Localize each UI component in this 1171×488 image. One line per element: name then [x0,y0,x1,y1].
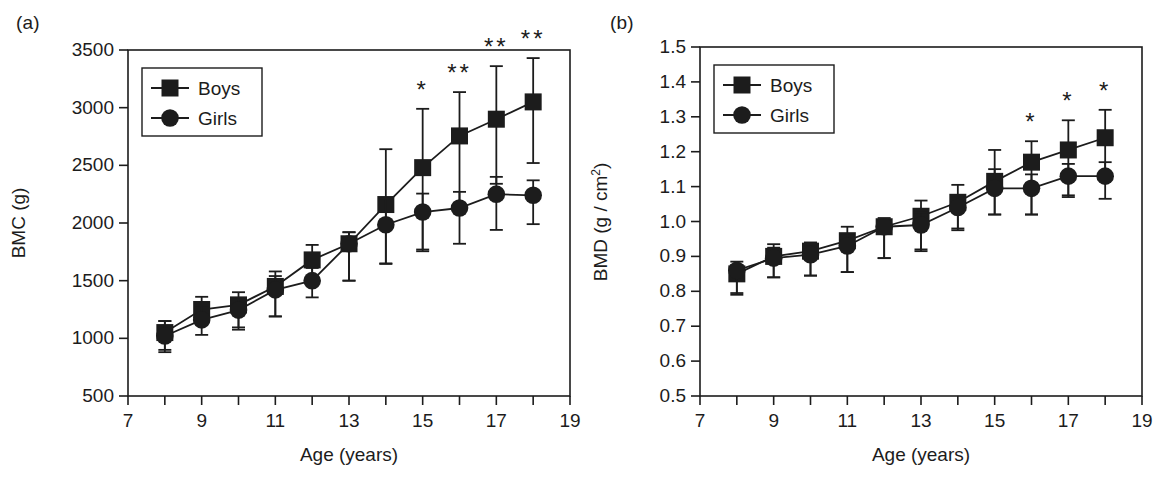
y-tick-label: 1.0 [660,211,686,232]
marker-circle [912,216,930,234]
marker-circle [1060,167,1078,185]
series-boys [728,110,1113,295]
marker-square [451,127,468,144]
x-tick-label: 7 [123,410,134,431]
marker-circle [451,199,469,217]
marker-square [1097,129,1114,146]
marker-circle [414,203,432,221]
significance-marker: ** [521,25,546,52]
legend-label-boys: Boys [770,75,812,96]
y-tick-label: 3500 [72,39,114,60]
y-tick-label: 1.4 [660,71,687,92]
x-tick-label: 15 [984,410,1005,431]
y-tick-label: 1.2 [660,141,686,162]
x-tick-label: 19 [1131,410,1152,431]
marker-circle [340,235,358,253]
marker-circle [949,199,967,217]
y-tick-label: 2500 [72,154,114,175]
x-tick-label: 13 [910,410,931,431]
x-axis-title-b: Age (years) [700,444,1142,466]
significance-marker: ** [447,59,472,86]
marker-circle [875,218,893,236]
x-tick-label: 19 [559,410,580,431]
x-tick-label: 13 [338,410,359,431]
x-tick-label: 15 [412,410,433,431]
marker-square [488,111,505,128]
x-tick-label: 17 [486,410,507,431]
marker-circle [488,185,506,203]
x-tick-label: 9 [768,410,779,431]
significance-marker: ** [484,33,509,60]
marker-square [1023,154,1040,171]
plot-area-a: 500100015002000250030003500791113151719*… [0,0,586,488]
y-tick-label: 500 [82,385,114,406]
legend-label-boys: Boys [198,78,240,99]
marker-square [304,251,321,268]
x-axis-title-a: Age (years) [128,444,570,466]
marker-circle [156,327,174,345]
figure-root: (a) 500100015002000250030003500791113151… [0,0,1171,488]
legend-label-girls: Girls [770,105,809,126]
significance-marker: * [416,76,428,103]
marker-circle [1096,167,1114,185]
y-tick-label: 2000 [72,212,114,233]
significance-marker: * [1025,108,1037,135]
legend-marker-square [162,80,179,97]
y-axis-title-a: BMC (g) [8,188,30,259]
marker-square [525,93,542,110]
x-tick-label: 17 [1058,410,1079,431]
series-girls [156,177,542,350]
legend-label-girls: Girls [198,108,237,129]
legend: BoysGirls [714,65,834,133]
significance-marker: * [1062,87,1074,114]
y-tick-label: 0.7 [660,315,686,336]
legend-marker-circle [161,109,179,127]
y-tick-label: 1.5 [660,36,686,57]
chart-panel-a: (a) 500100015002000250030003500791113151… [0,0,586,488]
marker-circle [377,216,395,234]
y-tick-label: 1.1 [660,176,686,197]
marker-circle [1023,180,1041,198]
marker-circle [765,249,783,267]
x-tick-label: 11 [837,410,857,431]
y-tick-label: 0.5 [660,385,686,406]
series-girls [728,162,1114,293]
marker-circle [728,262,746,280]
chart-panel-b: (b) 0.50.60.70.80.91.01.11.21.31.41.5791… [586,0,1171,488]
marker-circle [839,237,857,255]
x-tick-label: 7 [695,410,706,431]
marker-circle [193,311,211,329]
plot-area-b: 0.50.60.70.80.91.01.11.21.31.41.57911131… [586,0,1171,488]
marker-circle [524,187,542,205]
y-axis-title-b: BMD (g / cm2) [590,162,612,281]
legend-marker-circle [733,106,751,124]
legend: BoysGirls [142,68,262,136]
y-tick-label: 1000 [72,327,114,348]
marker-circle [267,281,285,299]
marker-circle [802,246,820,264]
legend-marker-square [734,77,751,94]
y-tick-label: 0.6 [660,350,686,371]
y-tick-label: 3000 [72,97,114,118]
x-tick-label: 11 [265,410,285,431]
marker-square [414,159,431,176]
marker-circle [986,180,1004,198]
significance-marker: * [1099,77,1111,104]
x-tick-label: 9 [196,410,207,431]
y-tick-label: 0.9 [660,245,686,266]
y-tick-label: 0.8 [660,280,686,301]
y-tick-label: 1500 [72,270,114,291]
y-tick-label: 1.3 [660,106,686,127]
marker-square [1060,141,1077,158]
marker-circle [303,272,321,290]
marker-circle [230,301,248,319]
